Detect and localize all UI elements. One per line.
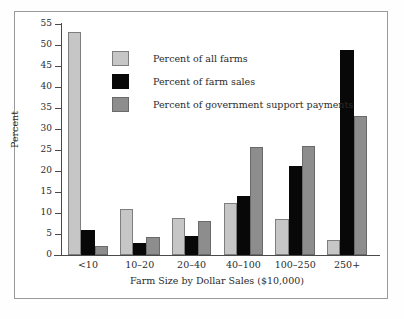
x-tick-label: 100–250 [269,259,321,270]
x-tick-label: 20–40 [166,259,218,270]
bar [185,236,198,255]
bar [146,237,159,255]
y-tick-label-text: 30 [18,124,52,133]
legend-label: Percent of government support payments [153,99,353,110]
bar [133,243,146,255]
figure-root: Percent 0510152025303540455055 <1010–202… [0,0,404,319]
y-tick-label: 10 [14,208,52,217]
y-tick-label: 50 [14,40,52,49]
y-tick-mark [55,192,61,193]
y-tick-label-text: 35 [18,103,52,112]
bar [237,196,250,255]
y-tick-label: 20 [14,166,52,175]
y-tick-label: 25 [14,145,52,154]
y-tick-mark [55,255,61,256]
y-tick-label: 55 [14,19,52,28]
y-tick-label-text: 55 [18,19,52,28]
y-tick-label-text: 45 [18,61,52,70]
bar [289,166,302,255]
x-tick-label: 10–20 [114,259,166,270]
y-tick-mark [55,150,61,151]
legend-item: Percent of farm sales [112,70,353,93]
y-tick-label-text: 0 [18,250,52,259]
legend-label: Percent of all farms [153,53,248,64]
bar [275,219,288,255]
x-tick-label: <10 [62,259,114,270]
bar [95,246,108,255]
y-tick-label: 5 [14,229,52,238]
y-tick-label-text: 50 [18,40,52,49]
y-tick-mark [55,234,61,235]
x-tick-label: 250+ [321,259,373,270]
legend-label: Percent of farm sales [153,76,255,87]
bar [81,230,94,255]
y-tick-mark [55,213,61,214]
bar [120,209,133,255]
y-tick-label-text: 25 [18,145,52,154]
y-tick-label: 0 [14,250,52,259]
y-tick-label-text: 40 [18,82,52,91]
bar [172,218,185,255]
legend-swatch [112,74,129,89]
y-tick-label-text: 20 [18,166,52,175]
y-tick-label-text: 5 [18,229,52,238]
y-tick-label: 15 [14,187,52,196]
legend-swatch [112,51,129,66]
y-tick-mark [55,108,61,109]
bar [354,116,367,255]
bar [68,32,81,255]
legend-item: Percent of all farms [112,47,353,70]
y-tick-label-text: 10 [18,208,52,217]
y-tick-label-text: 15 [18,187,52,196]
y-tick-mark [55,24,61,25]
y-tick-mark [55,87,61,88]
y-tick-label: 45 [14,61,52,70]
y-tick-mark [55,45,61,46]
legend-item: Percent of government support payments [112,93,353,116]
y-tick-mark [55,171,61,172]
bar [327,240,340,255]
x-axis-line [54,255,380,256]
y-tick-mark [55,129,61,130]
bar [250,147,263,255]
x-tick-label: 40–100 [218,259,270,270]
bar [224,203,237,255]
legend-swatch [112,97,129,112]
y-tick-label: 35 [14,103,52,112]
bar [302,146,315,255]
bar [198,221,211,255]
x-axis-title: Farm Size by Dollar Sales ($10,000) [54,275,380,286]
chart-legend: Percent of all farmsPercent of farm sale… [112,47,353,116]
y-tick-mark [55,66,61,67]
y-tick-label: 30 [14,124,52,133]
y-tick-label: 40 [14,82,52,91]
